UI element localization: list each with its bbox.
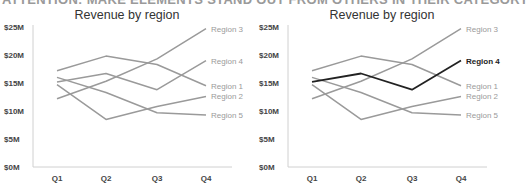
x-tick-label: Q4 bbox=[456, 174, 467, 183]
series-label: Region 2 bbox=[466, 92, 499, 101]
y-tick-label: $20M bbox=[4, 51, 24, 60]
x-tick-label: Q4 bbox=[201, 174, 212, 183]
series-line-region-4 bbox=[312, 61, 461, 90]
x-tick-label: Q1 bbox=[52, 174, 63, 183]
series-label: Region 1 bbox=[211, 82, 244, 91]
x-tick-label: Q3 bbox=[152, 174, 163, 183]
plot-area: $0M$5M$10M$15M$20M$25MQ1Q2Q3Q4Region 3Re… bbox=[255, 0, 509, 191]
y-tick-label: $0M bbox=[4, 163, 20, 172]
series-label: Region 1 bbox=[466, 82, 499, 91]
x-tick-label: Q2 bbox=[101, 174, 112, 183]
y-tick-label: $5M bbox=[259, 135, 275, 144]
series-label: Region 3 bbox=[466, 25, 499, 34]
series-line-region-5 bbox=[57, 77, 206, 115]
series-line-region-5 bbox=[312, 77, 461, 115]
series-label: Region 3 bbox=[211, 25, 244, 34]
series-label: Region 4 bbox=[211, 57, 244, 66]
y-tick-label: $0M bbox=[259, 163, 275, 172]
y-tick-label: $15M bbox=[4, 79, 24, 88]
y-tick-label: $10M bbox=[259, 107, 279, 116]
y-tick-label: $10M bbox=[4, 107, 24, 116]
series-label: Region 4 bbox=[466, 57, 500, 66]
x-tick-label: Q2 bbox=[356, 174, 367, 183]
chart-left: Revenue by region $0M$5M$10M$15M$20M$25M… bbox=[0, 0, 254, 191]
y-tick-label: $15M bbox=[259, 79, 279, 88]
chart-right: Revenue by region $0M$5M$10M$15M$20M$25M… bbox=[255, 0, 509, 191]
y-tick-label: $20M bbox=[259, 51, 279, 60]
y-tick-label: $25M bbox=[259, 23, 279, 32]
series-label: Region 5 bbox=[211, 111, 244, 120]
series-label: Region 2 bbox=[211, 92, 244, 101]
x-tick-label: Q1 bbox=[307, 174, 318, 183]
series-line-region-4 bbox=[57, 61, 206, 90]
plot-area: $0M$5M$10M$15M$20M$25MQ1Q2Q3Q4Region 3Re… bbox=[0, 0, 254, 191]
series-label: Region 5 bbox=[466, 111, 499, 120]
x-tick-label: Q3 bbox=[407, 174, 418, 183]
y-tick-label: $5M bbox=[4, 135, 20, 144]
y-tick-label: $25M bbox=[4, 23, 24, 32]
